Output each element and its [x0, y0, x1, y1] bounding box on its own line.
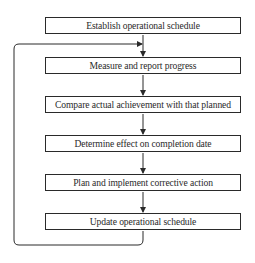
- step-label: Measure and report progress: [90, 60, 197, 71]
- step-compare-achievement: Compare actual achievement with that pla…: [45, 96, 241, 113]
- step-label: Update operational schedule: [90, 216, 197, 227]
- step-label: Establish operational schedule: [86, 20, 200, 31]
- step-label: Plan and implement corrective action: [73, 177, 213, 188]
- step-determine-effect: Determine effect on completion date: [45, 135, 241, 152]
- step-measure-progress: Measure and report progress: [45, 57, 241, 74]
- step-update-schedule: Update operational schedule: [45, 213, 241, 230]
- step-label: Compare actual achievement with that pla…: [55, 99, 231, 110]
- step-corrective-action: Plan and implement corrective action: [45, 174, 241, 191]
- step-establish-schedule: Establish operational schedule: [45, 17, 241, 34]
- step-label: Determine effect on completion date: [75, 138, 212, 149]
